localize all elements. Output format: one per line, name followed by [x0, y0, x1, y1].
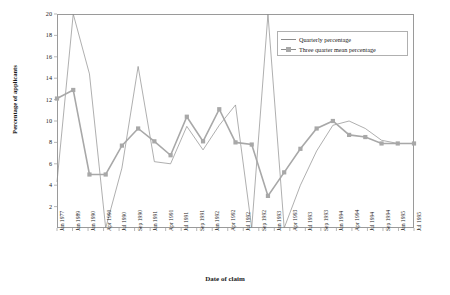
x-tick-label: Jul 1993	[307, 187, 313, 231]
data-point-marker	[152, 139, 156, 143]
x-tick-label: Apr 1993	[292, 187, 298, 231]
x-tick-label: Sep 1994	[385, 187, 391, 231]
x-tick-label: Sep 1990	[137, 187, 143, 231]
x-tick-label: Jan 1995	[400, 187, 406, 231]
x-tick-label: Jul 1991	[183, 187, 189, 231]
data-point-marker	[282, 170, 286, 174]
legend-label-three-quarter-mean: Three quarter mean percentage	[299, 46, 376, 53]
data-point-marker	[120, 144, 124, 148]
data-point-marker	[136, 126, 140, 130]
data-point-marker	[347, 133, 351, 137]
x-tick-label: Apr 1990	[106, 187, 112, 231]
legend-item-quarterly: Quarterly percentage	[281, 34, 404, 44]
chart-container: Percentage of applicants Quarterly perce…	[0, 0, 450, 295]
chart-legend: Quarterly percentage Three quarter mean …	[277, 31, 408, 56]
data-point-marker	[104, 172, 108, 176]
x-tick-label: Jan 1977	[59, 187, 65, 231]
line-swatch-icon	[281, 35, 296, 43]
x-tick-label: Sep 1991	[199, 187, 205, 231]
x-tick-label: Sep 1992	[261, 187, 267, 231]
x-tick-label: Jan 1993	[276, 187, 282, 231]
y-tick-label: 16	[30, 53, 52, 60]
x-tick-label: Jul 1994	[369, 187, 375, 231]
y-tick-label: 20	[30, 10, 52, 17]
y-tick-label: 14	[30, 74, 52, 81]
data-point-marker	[315, 126, 319, 130]
y-tick-label: 8	[30, 138, 52, 145]
data-point-marker	[87, 172, 91, 176]
x-tick-label: Jan 1994	[338, 187, 344, 231]
data-point-marker	[217, 107, 221, 111]
x-tick-label: Apr 1994	[354, 187, 360, 231]
legend-item-three-quarter-mean: Three quarter mean percentage	[281, 44, 404, 54]
x-tick-label: Jan 1991	[152, 187, 158, 231]
legend-label-quarterly: Quarterly percentage	[299, 36, 351, 43]
x-tick-label: Jul 1995	[416, 187, 422, 231]
x-axis-title: Date of claim	[0, 275, 450, 283]
x-tick-label: Apr 1992	[230, 187, 236, 231]
x-tick-label: Jan 1992	[214, 187, 220, 231]
data-point-marker	[379, 141, 383, 145]
data-point-marker	[363, 135, 367, 139]
y-tick-label: 18	[30, 31, 52, 38]
y-tick-label: 12	[30, 96, 52, 103]
x-tick-label: Jul 1992	[245, 187, 251, 231]
x-tick-label: Sep 1993	[323, 187, 329, 231]
data-point-marker	[298, 147, 302, 151]
data-point-marker	[185, 115, 189, 119]
data-point-marker	[55, 96, 59, 100]
x-tick-label: Jan 1990	[90, 187, 96, 231]
data-point-marker	[396, 141, 400, 145]
data-point-marker	[250, 142, 254, 146]
data-point-marker	[233, 140, 237, 144]
line-marker-swatch-icon	[281, 45, 296, 53]
x-tick-label: Apr 1991	[168, 187, 174, 231]
y-tick-label: 10	[30, 117, 52, 124]
data-point-marker	[412, 141, 416, 145]
data-point-marker	[331, 119, 335, 123]
data-point-marker	[168, 153, 172, 157]
data-point-marker	[71, 88, 75, 92]
y-tick-label: 6	[30, 160, 52, 167]
data-point-marker	[201, 139, 205, 143]
y-tick-label: 4	[30, 181, 52, 188]
x-tick-label: Jan 1989	[75, 187, 81, 231]
x-tick-label: Jul 1990	[121, 187, 127, 231]
y-tick-label: 2	[30, 203, 52, 210]
